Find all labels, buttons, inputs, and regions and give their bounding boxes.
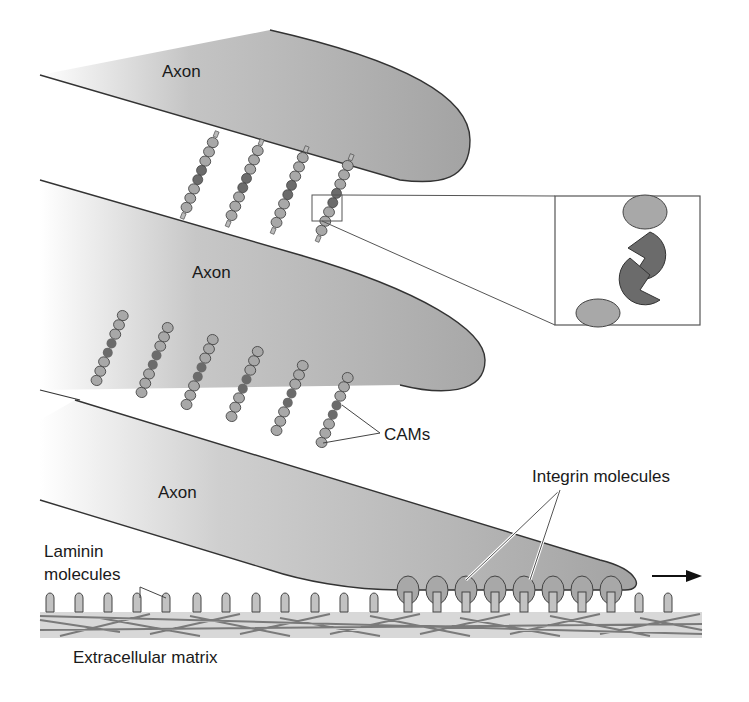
axon-adhesion-diagram	[0, 0, 749, 702]
axon-bottom	[40, 400, 636, 590]
label-axon-top: Axon	[162, 62, 201, 82]
label-ecm: Extracellular matrix	[73, 648, 218, 668]
label-axon-middle: Axon	[192, 263, 231, 283]
direction-arrow-icon	[652, 570, 702, 582]
label-integrin: Integrin molecules	[532, 467, 670, 487]
label-axon-bottom: Axon	[158, 483, 197, 503]
extracellular-matrix	[40, 612, 702, 638]
label-cams: CAMs	[384, 425, 430, 445]
label-laminin-1: Laminin	[44, 542, 104, 562]
label-laminin-2: molecules	[44, 565, 121, 585]
